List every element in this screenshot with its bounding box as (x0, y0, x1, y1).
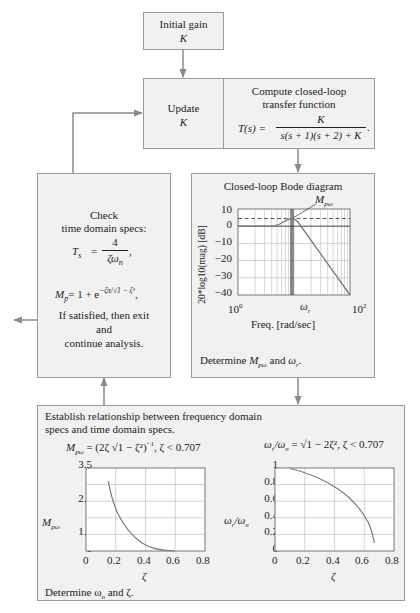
fraction-bar (276, 127, 366, 128)
compute-block: Compute closed-loop transfer function T(… (223, 78, 375, 149)
check-exit-2: and (38, 323, 170, 336)
check-title: Check (38, 209, 170, 222)
initial-gain-label: Initial gain (144, 18, 223, 31)
ts-comma: , (129, 245, 132, 258)
check-exit-3: continue analysis. (38, 337, 170, 350)
update-block: Update K (143, 78, 224, 149)
transfer-fn-lhs: T(s) = (238, 122, 266, 135)
relationship-charts (38, 406, 406, 602)
arrow-check-to-update (73, 113, 142, 173)
bode-plot (192, 174, 376, 379)
update-symbol: K (144, 116, 223, 129)
check-block: Check time domain specs: Ts = 4 ζωn , Mp… (37, 173, 171, 378)
relationship-block: Establish relationship between frequency… (37, 405, 405, 601)
ts-symbol: Ts (72, 245, 81, 262)
initial-gain-symbol: K (144, 32, 223, 45)
compute-label-1: Compute closed-loop (224, 85, 374, 98)
bode-block: Closed-loop Bode diagram Mpω 20*log10(ma… (191, 173, 375, 378)
transfer-fn-period: . (367, 121, 370, 134)
transfer-fn-denominator: s(s + 1)(s + 2) + K (276, 129, 366, 142)
ts-fraction-bar (102, 250, 128, 251)
update-label: Update (144, 102, 223, 115)
check-subtitle: time domain specs: (38, 222, 170, 235)
check-exit-1: If satisfied, then exit (38, 309, 170, 322)
compute-label-2: transfer function (224, 98, 374, 111)
ts-numerator: 4 (102, 236, 128, 249)
transfer-fn-numerator: K (276, 113, 366, 126)
mp-formula: Mp= 1 + e−ζπ/√1 − ζ², (55, 284, 138, 305)
ts-equals: = (91, 245, 97, 258)
initial-gain-block: Initial gain K (143, 12, 224, 50)
ts-denominator: ζωn (102, 252, 128, 269)
